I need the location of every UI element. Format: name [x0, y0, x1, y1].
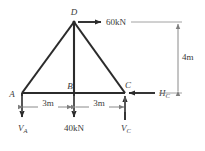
figure-background — [0, 0, 205, 151]
node-label-A: A — [8, 89, 15, 99]
reaction-subscript-vc: C — [127, 127, 132, 134]
dim-label-4m: 4m — [182, 52, 194, 62]
truss-diagram: A B C D 60kN 40kN VA VC HC 3m 3m — [0, 0, 205, 151]
dim-label-3m-ab: 3m — [42, 98, 54, 108]
reaction-subscript-va: A — [23, 127, 28, 134]
node-label-C: C — [125, 80, 132, 90]
load-label-40kn: 40kN — [64, 123, 85, 133]
node-markers — [72, 20, 75, 23]
node-marker-D — [72, 20, 75, 23]
dim-label-3m-bc: 3m — [93, 98, 105, 108]
node-label-B: B — [67, 81, 73, 91]
load-label-60kn: 60kN — [106, 17, 127, 27]
node-label-D: D — [70, 7, 78, 17]
